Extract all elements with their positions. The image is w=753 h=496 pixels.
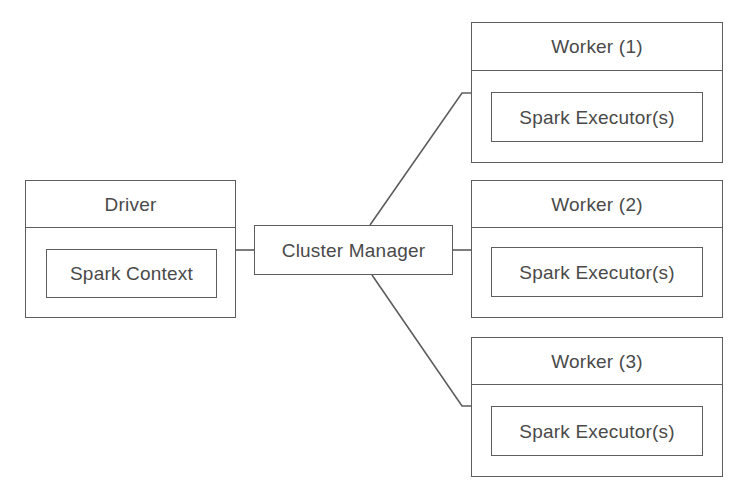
spark-executor-label-2: Spark Executor(s) [519,263,674,282]
spark-executor-label-3: Spark Executor(s) [519,422,674,441]
spark-executor-box-3: Spark Executor(s) [491,406,703,456]
spark-executor-box-1: Spark Executor(s) [491,92,703,142]
spark-executor-label-1: Spark Executor(s) [519,108,674,127]
connector-cluster-manager-to-worker-3 [372,275,471,406]
spark-executor-box-2: Spark Executor(s) [491,247,703,297]
worker-3-header: Worker (3) [472,338,722,385]
spark-context-box: Spark Context [46,249,217,298]
cluster-manager-label: Cluster Manager [282,241,425,260]
cluster-manager-node: Cluster Manager [254,225,453,275]
worker-1-label: Worker (1) [551,37,642,56]
worker-3-label: Worker (3) [551,352,642,371]
worker-node-1: Worker (1) Spark Executor(s) [471,22,723,163]
spark-context-label: Spark Context [70,264,193,283]
worker-node-2: Worker (2) Spark Executor(s) [471,180,723,318]
driver-node: Driver Spark Context [25,180,236,318]
driver-label: Driver [105,195,157,214]
connector-cluster-manager-to-worker-1 [370,93,471,225]
driver-header: Driver [26,181,235,228]
worker-2-header: Worker (2) [472,181,722,228]
worker-node-3: Worker (3) Spark Executor(s) [471,337,723,477]
spark-cluster-architecture-diagram: Driver Spark Context Cluster Manager Wor… [0,0,753,496]
worker-1-header: Worker (1) [472,23,722,71]
worker-2-label: Worker (2) [551,195,642,214]
